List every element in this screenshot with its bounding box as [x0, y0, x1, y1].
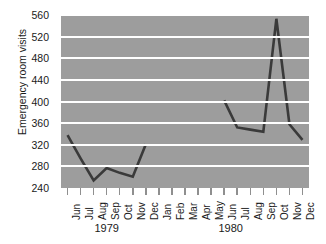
gridline — [61, 15, 309, 16]
x-month-label: Oct — [124, 204, 134, 220]
x-axis-month-labels: JunJulAugSepOctNovDecJanFebMarAprMayJunJ… — [61, 194, 309, 224]
gridline — [61, 79, 309, 81]
x-month-label: Apr — [202, 204, 212, 220]
gridline — [61, 165, 309, 167]
y-tick-label: 400 — [9, 97, 49, 108]
x-month-label: Aug — [98, 202, 108, 220]
gridline — [61, 57, 309, 59]
y-tick-label: 280 — [9, 161, 49, 172]
y-tick-label: 520 — [9, 32, 49, 43]
y-tick-label: 560 — [9, 10, 49, 21]
x-month-label: Jan — [163, 204, 173, 220]
x-year-label: 1979 — [94, 222, 118, 234]
gridline — [61, 144, 309, 146]
x-month-label: Sep — [267, 202, 277, 220]
y-tick-label: 240 — [9, 183, 49, 194]
x-year-label: 1980 — [218, 222, 242, 234]
x-month-label: Aug — [254, 202, 264, 220]
x-month-label: Jul — [241, 207, 251, 220]
y-tick-label: 360 — [9, 118, 49, 129]
x-month-label: Jul — [85, 207, 95, 220]
x-month-label: Jun — [228, 204, 238, 220]
gridline — [61, 36, 309, 38]
y-tick-label: 480 — [9, 53, 49, 64]
x-month-label: Dec — [150, 202, 160, 220]
x-month-label: Dec — [306, 202, 316, 220]
x-month-label: Nov — [293, 202, 303, 220]
x-month-label: May — [215, 201, 225, 220]
emergency-room-visits-line-chart: Emergency room visits 240280320360400440… — [0, 0, 326, 244]
x-month-label: Oct — [280, 204, 290, 220]
plot-area — [61, 15, 309, 188]
x-axis-year-labels: 19791980 — [61, 222, 309, 238]
x-month-label: Nov — [137, 202, 147, 220]
x-month-label: Sep — [111, 202, 121, 220]
x-month-label: Feb — [176, 203, 186, 220]
series-segment — [68, 135, 146, 180]
gridline — [61, 101, 309, 103]
x-month-label: Jun — [72, 204, 82, 220]
x-month-label: Mar — [189, 203, 199, 220]
gridline — [61, 122, 309, 124]
y-tick-label: 440 — [9, 75, 49, 86]
y-tick-label: 320 — [9, 140, 49, 151]
